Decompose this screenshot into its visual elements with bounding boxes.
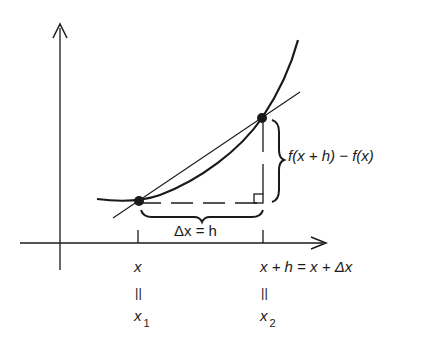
x2-label: x2 — [259, 307, 276, 329]
x-equals-sign: || — [135, 285, 142, 300]
function-curve — [97, 40, 298, 201]
x1-label: x1 — [133, 307, 150, 329]
delta-x-brace — [141, 210, 263, 222]
x-plus-h-label: x + h = x + Δx — [259, 258, 353, 275]
point-x2 — [257, 113, 267, 123]
x2-equals-sign: || — [261, 285, 268, 300]
point-x1 — [134, 196, 144, 206]
x-label: x — [133, 258, 142, 275]
delta-y-brace — [272, 120, 284, 202]
right-angle-icon — [254, 194, 263, 203]
horizontal-difference-label: Δx = h — [174, 222, 217, 239]
secant-diagram: f(x + h) − f(x) Δx = h x || x1 x + h = x… — [0, 0, 430, 343]
vertical-difference-label: f(x + h) − f(x) — [288, 147, 374, 164]
